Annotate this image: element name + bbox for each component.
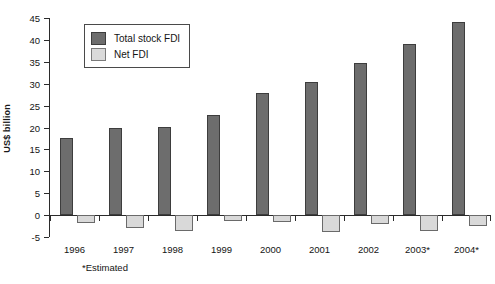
x-axis-tick-labels: 19961997199819992000200120022003*2004* [50,244,491,258]
y-axis-tick-mark [44,237,49,238]
bar-total-stock-fdi [403,44,416,215]
x-axis-tick-label: 1998 [162,244,183,255]
y-axis-tick-label: 35 [14,56,40,67]
y-axis-tick-labels: 454035302520151050-5 [14,0,40,284]
bar-net-fdi [322,215,340,232]
dark-gray-swatch-icon [91,32,106,45]
x-axis-tick-mark [99,215,100,221]
x-axis-tick-mark [442,215,443,221]
bar-net-fdi [224,215,242,221]
x-axis-tick-mark [344,215,345,221]
x-axis-tick-label: 2002 [358,244,379,255]
legend-label-net-fdi: Net FDI [114,49,148,60]
legend-label-total-stock-fdi: Total stock FDI [114,33,180,44]
bar-total-stock-fdi [452,22,465,215]
bar-total-stock-fdi [256,93,269,215]
bar-net-fdi [175,215,193,231]
y-axis-tick-label: 10 [14,166,40,177]
x-axis-tick-mark [197,215,198,221]
x-axis-tick-label: 2000 [260,244,281,255]
x-axis-tick-mark [490,215,491,221]
y-axis-tick-label: 30 [14,78,40,89]
chart-figure: US$ billion 454035302520151050-5 1996199… [0,0,495,284]
chart-legend: Total stock FDI Net FDI [84,24,190,68]
bar-net-fdi [420,215,438,231]
x-axis-tick-mark [295,215,296,221]
bar-net-fdi [273,215,291,222]
bar-total-stock-fdi [354,63,367,215]
bar-net-fdi [371,215,389,224]
legend-item-net-fdi: Net FDI [91,46,180,62]
y-axis-tick-label: 0 [14,210,40,221]
bar-net-fdi [469,215,487,226]
y-axis-tick-label: 20 [14,122,40,133]
footnote-estimated: *Estimated [82,262,128,273]
light-gray-swatch-icon [91,48,106,61]
legend-item-total-stock-fdi: Total stock FDI [91,30,180,46]
x-axis-tick-label: 2001 [309,244,330,255]
x-axis-tick-label: 2004* [454,244,479,255]
y-axis-tick-label: 40 [14,34,40,45]
x-axis-tick-mark [148,215,149,221]
bar-net-fdi [126,215,144,228]
bar-total-stock-fdi [207,115,220,215]
y-axis-tick-label: -5 [14,232,40,243]
x-axis-tick-mark [50,215,51,221]
x-axis-tick-mark [393,215,394,221]
y-axis-tick-label: 45 [14,13,40,24]
bar-total-stock-fdi [158,127,171,215]
bar-total-stock-fdi [305,82,318,215]
bar-total-stock-fdi [109,128,122,215]
x-axis-tick-mark [246,215,247,221]
x-axis-tick-label: 1999 [211,244,232,255]
y-axis-tick-label: 15 [14,144,40,155]
y-axis-tick-label: 5 [14,188,40,199]
x-axis-tick-label: 2003* [405,244,430,255]
bar-net-fdi [77,215,95,223]
x-axis-tick-label: 1996 [64,244,85,255]
bar-total-stock-fdi [60,138,73,216]
y-axis-tick-label: 25 [14,100,40,111]
x-axis-tick-label: 1997 [113,244,134,255]
